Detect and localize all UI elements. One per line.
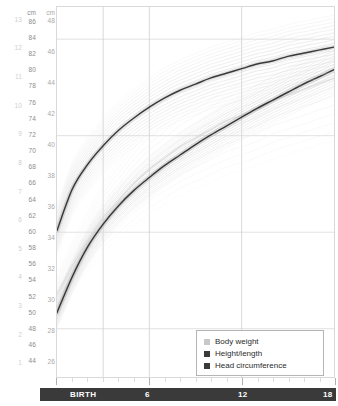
age-axis-label: 18 [323,390,333,400]
legend-swatch [204,363,210,369]
y-axis-head-circumference: 484644424038363432302826cm [33,0,55,380]
x-axis-month-ticks [56,378,335,386]
percentile-band-line [57,69,334,291]
axis-tick-label: 28 [33,328,55,335]
percentile-band-line [57,87,334,297]
month-tick [335,378,336,385]
axis-tick-label: 46 [33,49,55,56]
percentile-band-line [57,22,334,212]
axis-tick-label: 36 [33,204,55,211]
month-tick [320,378,321,382]
axis-unit-label: cm [33,10,55,17]
age-axis-label: 12 [238,390,248,400]
month-tick [103,378,104,382]
month-tick [165,378,166,382]
month-tick [87,378,88,382]
legend-swatch [204,339,210,345]
legend-item: Head circumference [204,360,323,372]
growth-chart: 13121110987654321 8684828078767472706866… [0,0,338,406]
month-tick [56,378,57,385]
legend-label: Height/length [215,349,262,359]
axis-tick-label: 32 [33,266,55,273]
legend-label: Head circumference [215,361,287,371]
legend-item: Body weight [204,336,323,348]
axis-tick-label: 34 [33,235,55,242]
month-tick [273,378,274,382]
month-tick [227,378,228,382]
legend-label: Body weight [215,337,259,347]
month-tick [242,378,243,385]
axis-tick-label: 26 [33,359,55,366]
age-axis-label: 6 [145,390,150,400]
plot-curves [57,7,334,377]
legend-item: Height/length [204,348,323,360]
percentile-band-line [57,51,334,286]
month-tick [134,378,135,382]
legend: Body weightHeight/lengthHead circumferen… [196,330,324,376]
month-tick [149,378,150,385]
month-tick [72,378,73,382]
axis-tick-label: 44 [33,80,55,87]
axis-tick-label: 38 [33,173,55,180]
month-tick [180,378,181,382]
axis-tick-label: 30 [33,297,55,304]
legend-swatch [204,351,210,357]
age-axis-label: BIRTH [70,390,96,400]
percentile-band-line [57,89,334,325]
axis-tick-label: 40 [33,142,55,149]
percentile-band-line [57,59,334,306]
month-tick [258,378,259,382]
month-tick [196,378,197,382]
month-tick [304,378,305,382]
month-tick [118,378,119,382]
percentile-band-line [57,62,334,308]
axis-tick-label: 48 [33,18,55,25]
percentile-band-line [57,67,334,311]
month-tick [289,378,290,382]
plot-area [56,6,335,378]
x-axis-age-bar: BIRTH61218 [40,388,336,401]
month-tick [211,378,212,382]
axis-tick-label: 42 [33,111,55,118]
